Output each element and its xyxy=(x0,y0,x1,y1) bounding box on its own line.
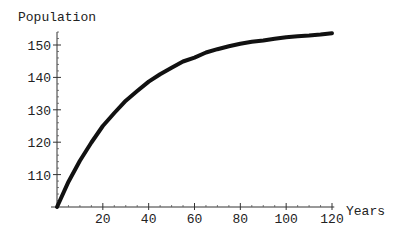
x-tick-label: 40 xyxy=(141,212,157,227)
y-tick-label: 150 xyxy=(28,39,51,54)
y-axis: 110120130140150 xyxy=(28,32,61,208)
y-tick-label: 140 xyxy=(28,71,51,86)
x-axis: 20406080100120 xyxy=(51,203,344,227)
x-tick-label: 80 xyxy=(233,212,249,227)
y-tick-label: 110 xyxy=(28,169,51,184)
x-tick-label: 100 xyxy=(274,212,297,227)
y-tick-label: 120 xyxy=(28,136,51,151)
x-axis-title: Years xyxy=(346,204,385,219)
population-curve xyxy=(57,33,332,207)
x-tick-label: 60 xyxy=(187,212,203,227)
x-tick-label: 120 xyxy=(320,212,343,227)
x-tick-label: 20 xyxy=(95,212,111,227)
y-axis-title: Population xyxy=(18,10,96,25)
y-tick-label: 130 xyxy=(28,104,51,119)
population-chart: Population 110120130140150 2040608010012… xyxy=(0,0,405,230)
